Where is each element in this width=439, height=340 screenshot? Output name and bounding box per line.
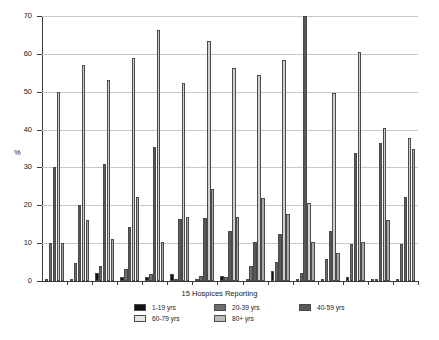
- y-tick: [37, 281, 42, 282]
- bar: [153, 147, 156, 281]
- bar: [300, 273, 303, 281]
- x-tick: [368, 281, 369, 285]
- bar-group: [92, 16, 117, 281]
- x-tick: [192, 281, 193, 285]
- bar: [321, 279, 324, 281]
- bar-group: [368, 16, 393, 281]
- bar: [224, 277, 227, 281]
- legend-swatch-icon: [134, 304, 146, 311]
- y-tick-label: 50: [10, 88, 32, 96]
- bar: [354, 153, 357, 281]
- bar-group: [393, 16, 418, 281]
- bar: [49, 243, 52, 281]
- bar: [174, 279, 177, 281]
- bar: [275, 262, 278, 281]
- bar: [45, 279, 48, 281]
- bar: [111, 239, 114, 281]
- y-tick-label: 20: [10, 201, 32, 209]
- bar: [124, 269, 127, 281]
- legend-row-1: 1-19 yrs 20-39 yrs 40-59 yrs: [134, 302, 384, 313]
- x-tick: [92, 281, 93, 285]
- bar: [178, 219, 181, 281]
- bar: [249, 266, 252, 281]
- y-tick: [37, 16, 42, 17]
- y-tick: [37, 205, 42, 206]
- legend-item-2: 40-59 yrs: [299, 304, 345, 311]
- bar-group: [117, 16, 142, 281]
- bar: [228, 231, 231, 281]
- bar: [57, 92, 60, 281]
- bar: [307, 203, 310, 281]
- y-tick: [37, 130, 42, 131]
- bar-group: [268, 16, 293, 281]
- x-tick: [343, 281, 344, 285]
- bar: [375, 279, 378, 281]
- bar: [128, 227, 131, 281]
- bar: [61, 243, 64, 281]
- bar: [161, 242, 164, 281]
- bar: [170, 274, 173, 281]
- bar: [120, 277, 123, 281]
- bar: [236, 217, 239, 281]
- x-tick: [318, 281, 319, 285]
- bar: [383, 128, 386, 281]
- bar-group: [318, 16, 343, 281]
- legend-swatch-icon: [214, 315, 226, 322]
- chart-legend: 1-19 yrs 20-39 yrs 40-59 yrs 60-79 yrs 8…: [134, 302, 384, 324]
- bar: [70, 279, 73, 281]
- bar: [379, 143, 382, 281]
- x-tick: [167, 281, 168, 285]
- bar: [195, 279, 198, 281]
- legend-item-0: 1-19 yrs: [134, 304, 214, 311]
- legend-item-4: 80+ yrs: [214, 315, 299, 322]
- bar: [78, 205, 81, 281]
- bar: [350, 244, 353, 281]
- legend-label: 20-39 yrs: [232, 304, 260, 311]
- bar-group: [42, 16, 67, 281]
- y-tick-label: 60: [10, 50, 32, 58]
- x-tick: [117, 281, 118, 285]
- bar: [361, 242, 364, 281]
- bar: [220, 276, 223, 281]
- bar: [157, 30, 160, 281]
- bar: [246, 279, 249, 281]
- bar: [408, 138, 411, 281]
- bar: [286, 214, 289, 281]
- legend-label: 40-59 yrs: [317, 304, 345, 311]
- x-tick: [393, 281, 394, 285]
- bar: [86, 220, 89, 281]
- bar: [132, 58, 135, 281]
- bar: [82, 65, 85, 281]
- bar: [149, 274, 152, 281]
- legend-label: 60-79 yrs: [152, 315, 180, 322]
- legend-swatch-icon: [134, 315, 146, 322]
- bar: [203, 218, 206, 281]
- bar: [182, 83, 185, 281]
- bar: [346, 277, 349, 281]
- legend-item-3: 60-79 yrs: [134, 315, 214, 322]
- y-tick: [37, 167, 42, 168]
- bar: [95, 273, 98, 281]
- x-axis-line: [42, 281, 419, 282]
- bar: [278, 234, 281, 281]
- bar-group: [293, 16, 318, 281]
- bar: [145, 277, 148, 281]
- bar-group: [142, 16, 167, 281]
- bar: [186, 217, 189, 281]
- bar: [296, 279, 299, 281]
- x-tick: [142, 281, 143, 285]
- x-tick: [67, 281, 68, 285]
- x-tick: [243, 281, 244, 285]
- bar: [404, 197, 407, 281]
- legend-swatch-icon: [299, 304, 311, 311]
- y-tick-label: 30: [10, 163, 32, 171]
- y-tick-label: 10: [10, 239, 32, 247]
- bar-group: [167, 16, 192, 281]
- bar-group: [243, 16, 268, 281]
- y-tick-label: 40: [10, 126, 32, 134]
- bar: [199, 276, 202, 281]
- bar: [53, 167, 56, 281]
- bar: [107, 80, 110, 281]
- y-tick-label: 0: [10, 277, 32, 285]
- bar: [396, 279, 399, 281]
